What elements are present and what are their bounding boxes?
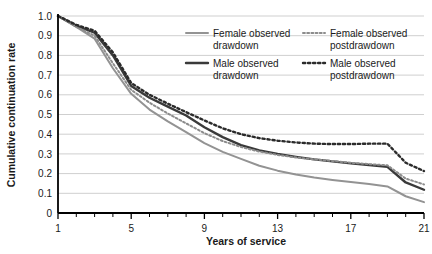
- x-axis-title: Years of service: [206, 235, 286, 247]
- x-tick-label: 21: [418, 223, 430, 234]
- y-tick-label: 0.8: [38, 50, 52, 61]
- y-tick-label: 0.1: [38, 188, 52, 199]
- chart-figure: 00.10.20.30.40.50.60.70.80.91.0 15913172…: [0, 0, 432, 254]
- x-tick-label: 17: [345, 223, 357, 234]
- legend-label-line2: drawdown: [213, 70, 259, 81]
- legend-label-line1: Male observed: [213, 58, 279, 69]
- y-tick-label: 0.5: [38, 109, 52, 120]
- y-tick-label: 0.3: [38, 149, 52, 160]
- legend-label-line1: Female observed: [213, 28, 290, 39]
- y-axis-title: Cumulative continuation rate: [5, 43, 17, 188]
- y-tick-label: 0.9: [38, 30, 52, 41]
- y-tick-label: 0: [46, 208, 52, 219]
- y-tick-label: 0.2: [38, 168, 52, 179]
- legend-label-line1: Male observed: [330, 58, 396, 69]
- y-tick-label: 0.6: [38, 89, 52, 100]
- x-tick-label: 1: [55, 223, 61, 234]
- y-tick-label: 0.4: [38, 129, 52, 140]
- y-tick-label: 1.0: [38, 11, 52, 22]
- legend-label-line1: Female observed: [330, 28, 407, 39]
- x-tick-label: 5: [128, 223, 134, 234]
- x-tick-label: 9: [202, 223, 208, 234]
- legend-label-line2: drawdown: [213, 40, 259, 51]
- legend-label-line2: postdrawdown: [330, 40, 394, 51]
- legend-label-line2: postdrawdown: [330, 70, 394, 81]
- continuation-rate-line-chart: 00.10.20.30.40.50.60.70.80.91.0 15913172…: [0, 0, 432, 254]
- y-tick-label: 0.7: [38, 70, 52, 81]
- x-tick-label: 13: [272, 223, 284, 234]
